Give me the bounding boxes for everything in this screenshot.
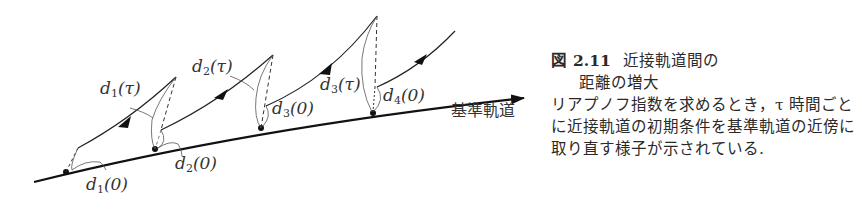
label-sub: 3 [331,83,338,96]
label-d1-tau: d1(τ) [100,80,141,99]
separation-dashed-1-tau [161,77,176,130]
caption-title-line2: 距離の増大 [551,72,861,94]
label-var: d [383,85,394,105]
label-arg: (τ) [210,56,233,76]
label-arg: (0) [401,85,425,105]
label-arg: (0) [104,174,128,194]
label-arg: (τ) [338,74,361,94]
label-var: d [86,174,97,194]
label-sub: 2 [186,162,193,175]
figure-caption: 図2.11近接軌道間の 距離の増大 リアプノフ指数を求めるとき，τ 時間ごとに近… [551,50,861,160]
label-d2-tau: d2(τ) [192,58,233,77]
reference-trajectory-label: 基準軌道 [451,97,515,121]
label-arg: (0) [193,153,217,173]
label-d1-0: d1(0) [86,176,128,195]
label-d4-0: d4(0) [383,87,425,106]
reference-point-4 [370,110,376,116]
label-d3-0: d3(0) [272,100,314,119]
caption-title: 図2.11近接軌道間の [551,50,861,72]
brace-d3-0 [263,106,268,126]
label-var: d [100,78,111,98]
label-d3-tau: d3(τ) [320,76,361,95]
arrow-head-icon [414,54,427,65]
arrow-head-icon [214,89,228,100]
label-sub: 2 [203,65,210,78]
label-sub: 1 [97,183,104,196]
label-arg: (τ) [118,78,141,98]
label-var: d [272,98,283,118]
label-sub: 1 [111,87,118,100]
label-var: d [192,56,203,76]
brace-d3-tau [362,16,377,112]
label-var: d [175,153,186,173]
separation-dashed-3-tau [375,16,377,87]
label-sub: 4 [394,94,401,107]
label-sub: 3 [283,107,290,120]
caption-description: リアプノフ指数を求めるとき，τ 時間ごとに近接軌道の初期条件を基準軌道の近傍に取… [551,94,861,160]
label-d2-0: d2(0) [175,155,217,174]
nearby-trajectory-4 [377,31,455,87]
caption-title-line1: 近接軌道間の [623,52,719,70]
label-arg: (0) [290,98,314,118]
figure-number: 2.11 [573,51,611,70]
label-var: d [320,74,331,94]
figure-prefix: 図 [551,51,567,70]
